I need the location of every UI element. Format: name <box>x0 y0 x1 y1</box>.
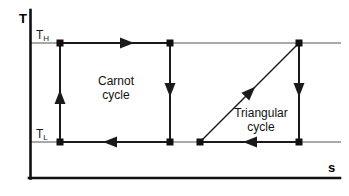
tick-label-tl: TL <box>36 128 48 140</box>
carnot-arrow-down-icon <box>165 83 176 97</box>
carnot-caption-line-2: cycle <box>80 89 152 103</box>
tick-label-th: TH <box>36 29 49 41</box>
ts-diagram-canvas <box>0 0 349 196</box>
triangular-cycle-caption: Triangular cycle <box>218 107 304 135</box>
carnot-vertex-marker <box>57 40 64 47</box>
axes <box>29 10 340 179</box>
y-axis-label: T <box>19 12 27 25</box>
carnot-vertex-marker <box>57 139 64 146</box>
triangular-arrow-down-icon <box>294 83 305 97</box>
x-axis-label: s <box>328 161 335 174</box>
triangular-vertex-marker <box>296 139 303 146</box>
carnot-vertex-marker <box>167 139 174 146</box>
carnot-vertex-marker <box>167 40 174 47</box>
carnot-caption-line-1: Carnot <box>80 75 152 89</box>
carnot-arrow-left-icon <box>103 137 117 148</box>
tick-label-th-subscript: H <box>43 34 49 43</box>
triangular-vertex-marker <box>296 40 303 47</box>
carnot-arrow-right-icon <box>120 38 134 49</box>
triangular-caption-line-1: Triangular <box>218 107 304 121</box>
triangular-vertex-marker <box>197 139 204 146</box>
tick-label-tl-subscript: L <box>43 133 47 142</box>
triangular-arrow-left-icon <box>243 137 257 148</box>
carnot-cycle-caption: Carnot cycle <box>80 75 152 103</box>
ts-diagram-figure: T s TH TL Carnot cycle Triangular cycle <box>0 0 349 196</box>
triangular-caption-line-2: cycle <box>218 121 304 135</box>
carnot-arrow-up-icon <box>55 90 66 104</box>
